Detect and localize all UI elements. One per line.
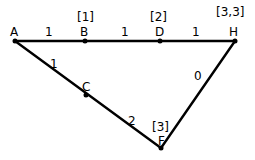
node-b-label: B xyxy=(80,25,88,39)
node-b-dot xyxy=(83,39,88,44)
edge-a-c-weight: 1 xyxy=(50,57,58,71)
node-d-dot xyxy=(158,39,163,44)
edge-d-h-weight: 1 xyxy=(192,25,200,39)
node-d-value: [2] xyxy=(150,10,167,24)
node-f-value: [3] xyxy=(152,120,169,134)
node-c-label: C xyxy=(82,80,90,94)
node-a-dot xyxy=(13,39,18,44)
node-h-value: [3,3] xyxy=(216,5,244,19)
edge-f-h-weight: 0 xyxy=(194,69,202,83)
node-a-label: A xyxy=(10,25,19,39)
graph-diagram: A B D H C F [1] [2] [3,3] [3] 1 1 1 1 2 … xyxy=(0,0,255,160)
edge-c-f-weight: 2 xyxy=(128,114,136,128)
node-h-dot xyxy=(233,39,238,44)
node-h-label: H xyxy=(229,25,238,39)
node-d-label: D xyxy=(155,25,164,39)
node-b-value: [1] xyxy=(77,10,94,24)
edge-f-h xyxy=(161,41,235,148)
edge-b-d-weight: 1 xyxy=(121,25,129,39)
edge-a-b-weight: 1 xyxy=(45,25,53,39)
node-f-label: F xyxy=(158,134,165,148)
